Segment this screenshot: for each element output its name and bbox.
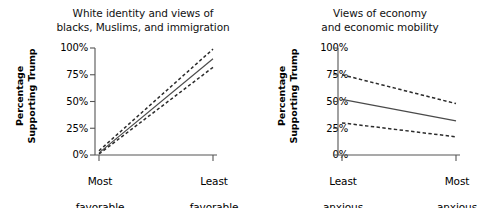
x-tick-label-most-anxious-line1: Most: [423, 175, 486, 188]
predicted-probability-line: [99, 59, 213, 153]
upper-confidence-line: [342, 75, 456, 104]
x-tick-label-most-anxious: Most anxious: [423, 162, 486, 208]
lower-confidence-line: [99, 67, 213, 154]
x-tick-label-least-favorable: Least favorable: [180, 162, 248, 208]
chart-panel-left: White identity and views of blacks, Musl…: [0, 0, 262, 208]
x-tick-label-most-favorable: Most favorable: [66, 162, 134, 208]
x-tick-label-most-favorable-line1: Most: [66, 175, 134, 188]
predicted-probability-line: [342, 99, 456, 120]
x-tick-label-least-anxious-line1: Least: [309, 175, 377, 188]
x-tick-label-least-anxious: Least anxious: [309, 162, 377, 208]
x-tick-label-most-favorable-line2: favorable: [66, 201, 134, 208]
x-tick-label-least-favorable-line2: favorable: [180, 201, 248, 208]
x-tick-label-least-favorable-line1: Least: [180, 175, 248, 188]
lower-confidence-line: [342, 123, 456, 137]
x-tick-label-most-anxious-line2: anxious: [423, 201, 486, 208]
x-tick-label-least-anxious-line2: anxious: [309, 201, 377, 208]
figure: White identity and views of blacks, Musl…: [0, 0, 486, 208]
upper-confidence-line: [99, 49, 213, 151]
chart-panel-right: Views of economy and economic mobility P…: [262, 0, 486, 208]
